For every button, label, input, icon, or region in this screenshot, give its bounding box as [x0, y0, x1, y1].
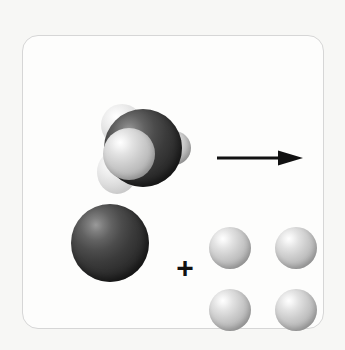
- product-hydrogen-atom-icon: [275, 227, 317, 269]
- product-hydrogen-atom-icon: [209, 227, 251, 269]
- figure-panel-screenshot: ce n uf re c f ss ng e at n s e nt t e r…: [0, 0, 345, 350]
- methane-molecule-model: methane molecule: [95, 104, 205, 204]
- product-carbon-atom-icon: [71, 204, 149, 282]
- product-hydrogen-atom-icon: [275, 289, 317, 331]
- product-hydrogen-atom-icon: [209, 289, 251, 331]
- reaction-arrow-icon: [216, 148, 304, 168]
- reaction-arrow-svg: [216, 148, 304, 168]
- illustration-frame: methane molecule + hydrogen atoms CH4 → …: [22, 35, 324, 329]
- hydrogen-atom-group: hydrogen atoms: [209, 227, 321, 335]
- hydrogen-atom-front-icon: [103, 128, 155, 180]
- plus-operator: +: [172, 255, 198, 281]
